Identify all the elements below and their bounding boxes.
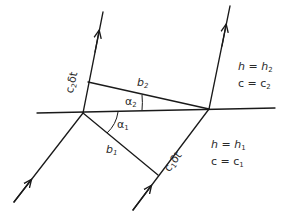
label-alpha1: α1 [117,119,129,132]
label-b1: b1 [106,144,117,157]
interface-line [37,108,275,113]
left-ray-upper [83,12,103,113]
wavefront-b2 [88,82,209,109]
refraction-diagram: c2δt b2 α2 α1 b1 c1δt h = h2 c = c2 h = … [0,0,287,215]
label-alpha2: α2 [125,96,137,109]
right-ray-upper-arrow [222,25,226,46]
diagram-canvas [0,0,287,215]
lower-medium-depth: h = h1 [211,138,246,155]
label-b2: b2 [137,77,148,90]
lower-medium-properties: h = h1 c = c1 [211,138,246,172]
right-ray-upper [209,6,230,109]
left-ray-upper-arrow [95,31,99,52]
right-ray-lower-arrow [133,186,151,210]
lower-medium-speed: c = c1 [211,155,246,172]
upper-medium-properties: h = h2 c = c2 [238,60,273,94]
upper-medium-depth: h = h2 [238,60,273,77]
left-ray-lower-arrow [14,180,31,202]
upper-medium-speed: c = c2 [238,77,273,94]
